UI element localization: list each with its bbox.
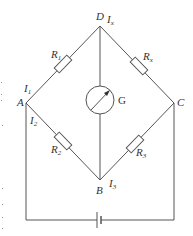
svg-text:I1: I1 — [23, 82, 31, 96]
svg-text:I2: I2 — [29, 114, 38, 128]
label-rx: Rx — [142, 50, 154, 64]
label-i2: I2 — [29, 114, 38, 128]
galvanometer-label: G — [118, 94, 126, 106]
svg-text:Rx: Rx — [142, 50, 154, 64]
galvanometer: G — [86, 86, 126, 114]
label-i3: I3 — [108, 177, 117, 191]
svg-text:I3: I3 — [108, 177, 117, 191]
node-label-b: B — [96, 184, 103, 196]
wheatstone-bridge-diagram: G D A C B R1 Rx R2 R3 I1 I2 I3 Ix — [0, 0, 193, 236]
label-i1: I1 — [23, 82, 31, 96]
scan-marks — [1, 82, 3, 229]
svg-text:R2: R2 — [50, 143, 62, 157]
svg-text:R3: R3 — [135, 146, 147, 160]
svg-text:Ix: Ix — [106, 13, 115, 27]
battery — [97, 212, 101, 228]
label-r1: R1 — [50, 48, 61, 62]
node-label-d: D — [95, 10, 104, 22]
node-label-a: A — [16, 96, 24, 108]
label-r3: R3 — [135, 146, 147, 160]
node-label-c: C — [177, 96, 185, 108]
label-ix: Ix — [106, 13, 115, 27]
svg-text:R1: R1 — [50, 48, 61, 62]
label-r2: R2 — [50, 143, 62, 157]
